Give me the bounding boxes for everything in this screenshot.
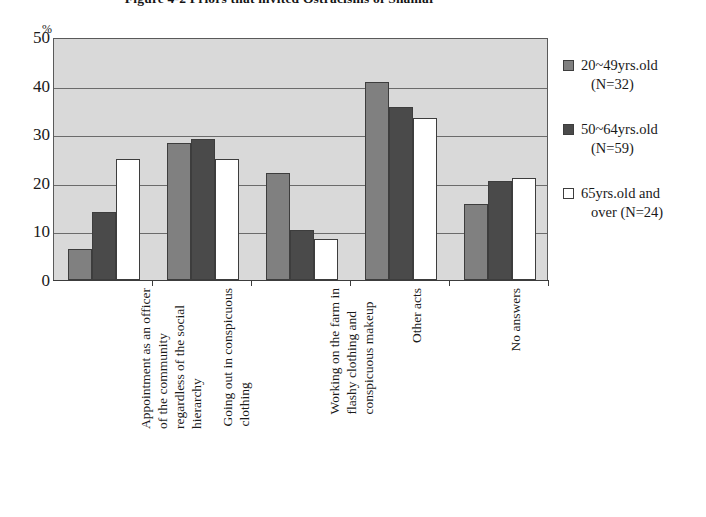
legend-item[interactable]: 50~64yrs.old(N=59) bbox=[563, 120, 703, 158]
bar[interactable] bbox=[464, 204, 488, 280]
x-axis-label-line: conspicuous makeup bbox=[360, 288, 377, 414]
legend-label-line2: over (N=24) bbox=[581, 203, 663, 222]
bar[interactable] bbox=[116, 159, 140, 281]
legend-swatch-dark-gray bbox=[563, 124, 574, 135]
x-axis-tick bbox=[449, 281, 450, 286]
legend-label-line1: 20~49yrs.old bbox=[581, 56, 658, 75]
chart-title: Figure 4-2 Priors that invited Ostracism… bbox=[0, 0, 560, 7]
bar-group bbox=[68, 39, 140, 280]
x-axis-tick bbox=[548, 281, 549, 286]
bar[interactable] bbox=[215, 159, 239, 281]
x-axis-category-label: Going out in conspicuousclothing bbox=[219, 288, 253, 426]
y-axis-unit-label: % bbox=[42, 22, 52, 37]
y-axis-tick-label: 10 bbox=[6, 223, 50, 240]
legend-label-line1: 50~64yrs.old bbox=[581, 120, 658, 139]
bar[interactable] bbox=[290, 230, 314, 280]
bar[interactable] bbox=[191, 139, 215, 280]
x-axis-tick bbox=[251, 281, 252, 286]
legend-label-line1: 65yrs.old and bbox=[581, 184, 663, 203]
x-axis-tick bbox=[350, 281, 351, 286]
x-axis-category-label: Other acts bbox=[408, 288, 425, 343]
bar-group bbox=[464, 39, 536, 280]
legend-label-line2: (N=59) bbox=[581, 139, 658, 158]
legend-label: 65yrs.old andover (N=24) bbox=[581, 184, 663, 222]
x-axis-category-label: Appointment as an officerof the communit… bbox=[137, 288, 205, 429]
y-axis-tick-label: 40 bbox=[6, 78, 50, 95]
legend-label: 50~64yrs.old(N=59) bbox=[581, 120, 658, 158]
x-axis-label-line: flashy clothing and bbox=[343, 288, 360, 414]
x-axis-label-line: Appointment as an officer bbox=[137, 288, 154, 429]
bar-group bbox=[167, 39, 239, 280]
bar[interactable] bbox=[365, 82, 389, 280]
y-axis-tick-label: 20 bbox=[6, 175, 50, 192]
legend-item[interactable]: 20~49yrs.old(N=32) bbox=[563, 56, 703, 94]
x-axis-label-line: Other acts bbox=[408, 288, 425, 343]
x-axis-label-line: of the community bbox=[154, 288, 171, 429]
y-axis: 01020304050 bbox=[0, 0, 50, 517]
legend-swatch-medium-gray bbox=[563, 60, 574, 71]
x-axis-label-line: hierarchy bbox=[188, 288, 205, 429]
x-axis-line bbox=[53, 280, 549, 281]
bar[interactable] bbox=[314, 239, 338, 280]
bar[interactable] bbox=[488, 181, 512, 280]
bar[interactable] bbox=[92, 212, 116, 280]
x-axis-label-line: regardless of the social bbox=[171, 288, 188, 429]
chart-legend: 20~49yrs.old(N=32)50~64yrs.old(N=59)65yr… bbox=[563, 56, 703, 248]
x-axis-label-line: Working on the farm in bbox=[326, 288, 343, 414]
legend-label-line2: (N=32) bbox=[581, 75, 658, 94]
bar[interactable] bbox=[512, 178, 536, 280]
bar-group bbox=[266, 39, 338, 280]
bar[interactable] bbox=[167, 143, 191, 280]
y-axis-tick-label: 0 bbox=[6, 272, 50, 289]
bar[interactable] bbox=[266, 173, 290, 280]
legend-label: 20~49yrs.old(N=32) bbox=[581, 56, 658, 94]
x-axis-label-line: Going out in conspicuous bbox=[219, 288, 236, 426]
x-axis-label-line: clothing bbox=[236, 288, 253, 426]
bar[interactable] bbox=[68, 249, 92, 280]
x-axis-tick bbox=[152, 281, 153, 286]
x-axis-category-label: No answers bbox=[507, 288, 524, 351]
legend-item[interactable]: 65yrs.old andover (N=24) bbox=[563, 184, 703, 222]
bar-group bbox=[365, 39, 437, 280]
bar[interactable] bbox=[389, 107, 413, 280]
x-axis-label-line: No answers bbox=[507, 288, 524, 351]
y-axis-tick-label: 30 bbox=[6, 126, 50, 143]
bar[interactable] bbox=[413, 118, 437, 280]
legend-swatch-white bbox=[563, 188, 574, 199]
plot-area bbox=[53, 38, 548, 281]
x-axis-category-label: Working on the farm inflashy clothing an… bbox=[326, 288, 377, 414]
